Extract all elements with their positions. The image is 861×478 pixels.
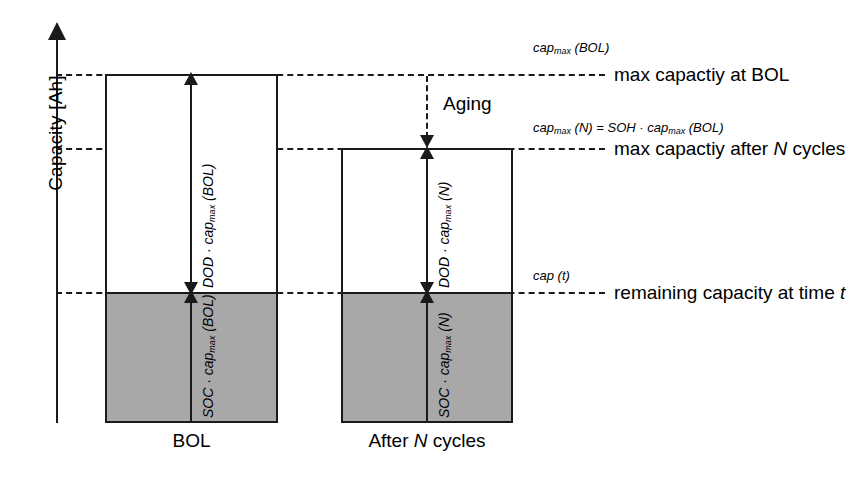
level-remaining-capacity-formula: cap (t)	[533, 268, 570, 283]
level-remaining-capacity-description: remaining capacity at time t	[614, 282, 845, 304]
bar-bol-dod-label: DOD · capmax (BOL)	[200, 164, 217, 288]
bar-after-n-soc-label-prefix: SOC · cap	[436, 353, 452, 418]
level-n-formula-suffix: (BOL)	[685, 120, 723, 135]
bar-after-n-caption-plain: After	[368, 430, 413, 451]
bar-after-n-soc-label-sub: max	[443, 336, 453, 353]
bar-bol-caption-text: BOL	[172, 430, 210, 451]
level-bol-formula-sub: max	[554, 46, 571, 56]
bar-after-n-soc-arrow-shaft	[426, 300, 428, 422]
level-max-capacity-after-n-formula: capmax (N) = SOH · capmax (BOL)	[533, 120, 723, 136]
bar-after-n-dod-label-prefix: DOD · cap	[436, 222, 452, 288]
level-n-formula-sub: max	[554, 126, 571, 136]
bar-bol-dod-label-suffix: (BOL)	[200, 164, 216, 205]
aging-label: Aging	[443, 93, 492, 115]
level-max-capacity-after-n-description: max capactiy after N cycles	[614, 138, 845, 160]
bar-bol-caption: BOL	[105, 430, 278, 452]
bar-after-n-dod-label: DOD · capmax (N)	[436, 182, 453, 288]
bar-after-n-dod-label-sub: max	[443, 205, 453, 222]
level-t-formula-suffix: (t)	[554, 268, 570, 283]
bar-after-n-soc-label: SOC · capmax (N)	[436, 312, 453, 418]
level-t-description-plain: remaining capacity at time	[614, 282, 840, 303]
bar-after-n-caption-italic: N	[414, 430, 428, 451]
battery-capacity-diagram: Capacity [Ah] DOD · capmax (BOL) SOC · c…	[0, 0, 861, 478]
bar-bol-soc-label: SOC · capmax (BOL)	[200, 294, 217, 418]
y-axis-label: Capacity [Ah]	[45, 38, 67, 228]
bar-after-n-soc-label-suffix: (N)	[436, 312, 452, 335]
bar-bol-soc-arrowhead-up-icon	[184, 290, 198, 303]
level-n-formula-prefix: cap	[533, 120, 554, 135]
bar-bol-soc-label-sub: max	[207, 336, 217, 353]
level-n-description-tail: cycles	[787, 138, 845, 159]
bar-bol-dod-arrow-shaft	[190, 82, 192, 293]
level-max-capacity-bol-description: max capactiy at BOL	[614, 64, 789, 86]
level-n-description-plain: max capactiy after	[614, 138, 773, 159]
level-bol-formula-prefix: cap	[533, 40, 554, 55]
level-n-formula-sub2: max	[668, 126, 685, 136]
bar-bol-dod-arrowhead-up-icon	[184, 72, 198, 85]
aging-arrowhead-down-icon	[420, 135, 434, 148]
bar-after-n-dod-label-suffix: (N)	[436, 182, 452, 205]
bar-after-n-soc-arrowhead-up-icon	[420, 290, 434, 303]
bar-bol-dod-label-prefix: DOD · cap	[200, 222, 216, 288]
level-n-description-italic: N	[773, 138, 787, 159]
bar-bol-soc-arrow-shaft	[190, 300, 192, 422]
bar-bol-soc-label-suffix: (BOL)	[200, 294, 216, 335]
aging-arrow-shaft	[426, 76, 428, 138]
level-t-formula-prefix: cap	[533, 268, 554, 283]
level-n-formula-mid: (N) = SOH · cap	[571, 120, 668, 135]
level-t-description-italic: t	[840, 282, 845, 303]
bar-after-n-dod-arrow-shaft	[426, 156, 428, 293]
level-bol-formula-suffix: (BOL)	[571, 40, 609, 55]
bar-bol-dod-label-sub: max	[207, 205, 217, 222]
level-max-capacity-bol-formula: capmax (BOL)	[533, 40, 609, 56]
bar-bol-soc-label-prefix: SOC · cap	[200, 353, 216, 418]
bar-after-n-caption-tail: cycles	[428, 430, 486, 451]
bar-after-n-caption: After N cycles	[341, 430, 513, 452]
